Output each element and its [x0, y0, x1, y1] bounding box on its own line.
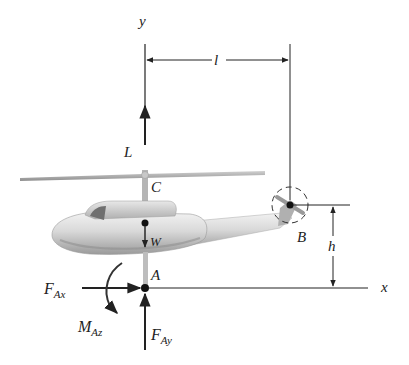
lift-force-arrow: L: [123, 106, 145, 160]
reaction-fay-arrow: FAy: [145, 294, 172, 350]
x-axis: x: [149, 279, 388, 295]
dimension-l-label: l: [214, 52, 218, 68]
point-a-label: A: [150, 267, 161, 283]
helicopter-free-body-diagram: y l L C W: [0, 0, 409, 365]
x-axis-label: x: [380, 279, 388, 295]
point-c-label: C: [151, 179, 162, 195]
y-axis: y: [137, 13, 146, 110]
dimension-h: h: [328, 207, 336, 286]
dimension-h-label: h: [328, 238, 336, 254]
lift-label: L: [123, 144, 132, 160]
weight-label: W: [150, 234, 162, 249]
rotor-hub: [142, 172, 149, 179]
y-axis-label: y: [137, 13, 146, 29]
point-a-dot: [141, 284, 149, 292]
point-b-dot: [287, 202, 294, 209]
support-strut: [143, 252, 148, 286]
point-b-label: B: [297, 229, 306, 245]
fax-label: FAx: [43, 280, 66, 300]
fay-label: FAy: [150, 326, 172, 346]
reaction-fax-arrow: FAx: [43, 280, 140, 300]
moment-maz-arc: MAz: [77, 263, 122, 338]
maz-label: MAz: [77, 318, 103, 338]
